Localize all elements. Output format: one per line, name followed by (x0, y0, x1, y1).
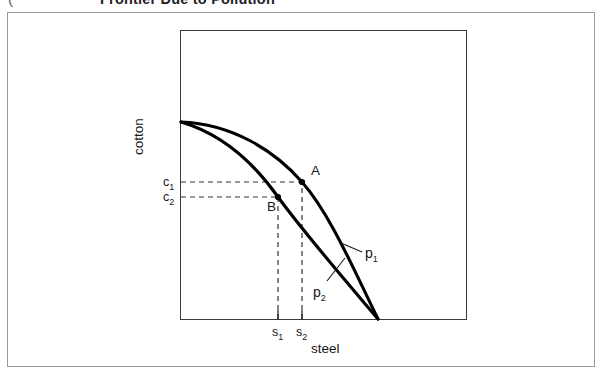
curve-p1 (181, 122, 378, 319)
curve-p1-base: p (365, 245, 373, 261)
x-axis-label: steel (311, 341, 340, 356)
point-marker-A (299, 179, 305, 185)
x-tick-s1-sub: 1 (278, 332, 283, 342)
curve-p2-sub: 2 (321, 293, 326, 303)
x-tick-s2-sub: 2 (302, 332, 307, 342)
curve-p1-sub: 1 (373, 254, 378, 264)
y-axis-label: cotton (131, 118, 146, 155)
x-tick-label-s1: s1 (272, 325, 283, 342)
x-tick-label-s2: s2 (296, 325, 307, 342)
point-label-A: A (311, 163, 320, 178)
curve-label-p1: p1 (365, 245, 378, 264)
point-label-B: B (267, 199, 276, 214)
y-tick-c2-sub: 2 (169, 197, 174, 207)
y-tick-label-c2: c2 (163, 190, 174, 207)
curve-p2-base: p (313, 284, 321, 300)
curve-p2 (181, 122, 378, 319)
plot-drawing-surface (0, 0, 603, 379)
curve-label-p2: p2 (313, 284, 326, 303)
